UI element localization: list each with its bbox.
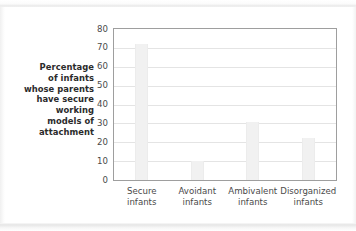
x-tick-label-avoidant-infants-line-1: Avoidant [168, 186, 226, 197]
x-tick-label-avoidant-infants-line-2: infants [168, 197, 226, 208]
x-tick-label-ambivalent-infants-line-2: infants [224, 197, 282, 208]
y-tick-label-10: 10 [68, 157, 108, 166]
x-tick-label-avoidant-infants: Avoidant infants [168, 186, 226, 208]
x-tick-label-secure-infants-line-2: infants [113, 197, 171, 208]
x-tick-label-disorganized-infants: Disorganized infants [279, 186, 337, 208]
y-tick-label-80: 80 [68, 25, 108, 34]
bar-avoidant-infants[interactable] [191, 161, 204, 180]
y-tick-label-20: 20 [68, 138, 108, 147]
bar-ambivalent-infants[interactable] [246, 122, 259, 181]
x-tick-label-disorganized-infants-line-2: infants [279, 197, 337, 208]
y-tick-label-70: 70 [68, 43, 108, 52]
y-tick-label-40: 40 [68, 100, 108, 109]
x-tick-label-disorganized-infants-line-1: Disorganized [279, 186, 337, 197]
y-tick-label-50: 50 [68, 81, 108, 90]
x-tick-label-secure-infants: Secure infants [113, 186, 171, 208]
y-tick-label-0: 0 [68, 176, 108, 185]
bar-secure-infants[interactable] [135, 44, 148, 180]
y-axis-title-line-7: attachment [8, 127, 94, 138]
y-tick-label-60: 60 [68, 62, 108, 71]
bar-chart-figure: Percentage of infants whose parents have… [0, 0, 356, 231]
x-tick-label-ambivalent-infants-line-1: Ambivalent [224, 186, 282, 197]
y-tick-label-30: 30 [68, 119, 108, 128]
bar-disorganized-infants[interactable] [302, 138, 315, 180]
plot-area [113, 28, 337, 181]
x-tick-label-ambivalent-infants: Ambivalent infants [224, 186, 282, 208]
x-tick-label-secure-infants-line-1: Secure [113, 186, 171, 197]
